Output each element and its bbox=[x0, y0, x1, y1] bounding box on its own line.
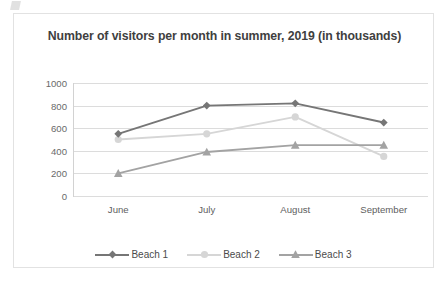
gridline bbox=[74, 196, 428, 197]
x-axis-tick-label: August bbox=[280, 204, 310, 215]
legend-label: Beach 1 bbox=[131, 249, 168, 260]
y-axis-tick-label: 800 bbox=[51, 100, 67, 111]
y-axis-tick-label: 600 bbox=[51, 123, 67, 134]
chart-container: Number of visitors per month in summer, … bbox=[13, 13, 434, 268]
series-line-beach-3 bbox=[118, 145, 384, 173]
y-axis-tick-label: 0 bbox=[62, 191, 67, 202]
y-axis-tick-label: 400 bbox=[51, 145, 67, 156]
legend-item-beach-2[interactable]: Beach 2 bbox=[187, 249, 260, 260]
series-line-beach-2 bbox=[118, 117, 384, 157]
x-axis-tick-label: July bbox=[198, 204, 215, 215]
legend-item-beach-3[interactable]: Beach 3 bbox=[279, 249, 352, 260]
series-line-beach-1 bbox=[118, 103, 384, 134]
scan-artifact bbox=[10, 1, 21, 10]
data-point-marker bbox=[109, 251, 117, 259]
legend-swatch-icon bbox=[95, 249, 129, 260]
chart-legend: Beach 1Beach 2Beach 3 bbox=[14, 249, 433, 260]
data-point-marker bbox=[203, 102, 211, 110]
legend-label: Beach 3 bbox=[315, 249, 352, 260]
data-point-marker bbox=[292, 250, 301, 258]
series-lines bbox=[74, 83, 428, 196]
data-point-marker bbox=[291, 99, 299, 107]
data-point-marker bbox=[114, 130, 122, 138]
chart-title: Number of visitors per month in summer, … bbox=[42, 28, 407, 44]
legend-label: Beach 2 bbox=[223, 249, 260, 260]
y-axis-tick-label: 200 bbox=[51, 168, 67, 179]
legend-swatch-icon bbox=[187, 249, 221, 260]
x-axis-tick-label: September bbox=[360, 204, 407, 215]
legend-swatch-icon bbox=[279, 249, 313, 260]
data-point-marker bbox=[380, 119, 388, 127]
plot-area: 02004006008001000 JuneJulyAugustSeptembe… bbox=[74, 83, 428, 196]
data-point-marker bbox=[203, 130, 210, 137]
y-axis-tick-label: 1000 bbox=[46, 78, 67, 89]
legend-item-beach-1[interactable]: Beach 1 bbox=[95, 249, 168, 260]
data-point-marker bbox=[201, 251, 208, 258]
data-point-marker bbox=[380, 153, 387, 160]
x-axis-tick-label: June bbox=[108, 204, 129, 215]
data-point-marker bbox=[292, 113, 299, 120]
